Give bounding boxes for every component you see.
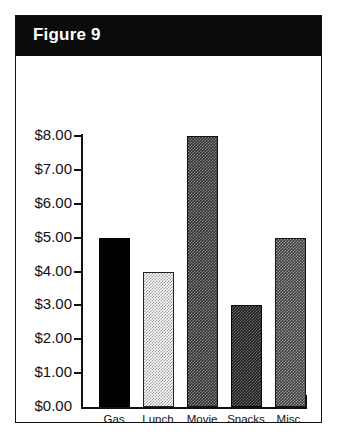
bar-snacks[interactable]	[231, 305, 262, 407]
figure-title: Figure 9	[33, 25, 101, 45]
figure-header-bar: Figure 9	[16, 16, 321, 56]
bar-misc[interactable]	[275, 238, 306, 407]
bar-series	[16, 56, 321, 424]
bar-lunch[interactable]	[143, 272, 174, 408]
figure-card: Figure 9 $8.00 $7.00 $6.00 $5.00 $4.00	[15, 15, 322, 423]
x-tick-label-misc: Misc.	[261, 413, 319, 425]
bar-movie[interactable]	[187, 136, 218, 407]
chart-plot-area: $8.00 $7.00 $6.00 $5.00 $4.00 $3.00 $2.0…	[16, 56, 321, 424]
bar-gas[interactable]	[99, 238, 130, 407]
